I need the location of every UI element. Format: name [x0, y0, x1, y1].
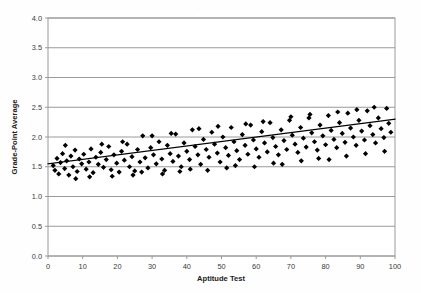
- y-tick-label: 0.0: [32, 252, 42, 261]
- x-tick-label: 90: [356, 262, 364, 271]
- x-tick-label: 20: [113, 262, 121, 271]
- y-axis-title: Grade-Point Average: [10, 100, 19, 175]
- y-tick-label: 3.5: [32, 43, 42, 52]
- y-tick-label: 1.5: [32, 162, 42, 171]
- x-axis-ticks: 0102030405060708090100: [46, 256, 401, 271]
- y-tick-label: 2.5: [32, 103, 42, 112]
- chart-canvas: 0.00.51.01.52.02.53.03.54.0 010203040506…: [0, 0, 421, 293]
- y-tick-label: 2.0: [32, 133, 42, 142]
- x-axis-title: Aptitude Test: [197, 274, 245, 283]
- x-tick-label: 100: [389, 262, 401, 271]
- x-tick-label: 80: [321, 262, 329, 271]
- x-tick-label: 10: [79, 262, 87, 271]
- y-tick-label: 4.0: [32, 14, 42, 23]
- y-tick-label: 0.5: [32, 222, 42, 231]
- x-tick-label: 0: [46, 262, 50, 271]
- x-tick-label: 50: [217, 262, 225, 271]
- x-tick-label: 60: [252, 262, 260, 271]
- y-tick-label: 1.0: [32, 192, 42, 201]
- x-tick-label: 30: [148, 262, 156, 271]
- y-tick-label: 3.0: [32, 73, 42, 82]
- scatter-chart: 0.00.51.01.52.02.53.03.54.0 010203040506…: [0, 0, 421, 293]
- x-tick-label: 70: [287, 262, 295, 271]
- x-tick-label: 40: [183, 262, 191, 271]
- y-axis-ticks: 0.00.51.01.52.02.53.03.54.0: [32, 14, 48, 261]
